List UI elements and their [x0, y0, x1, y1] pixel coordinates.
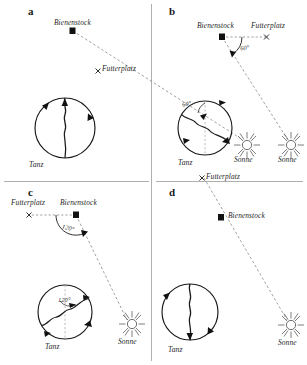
- feeding-marker-d: [200, 176, 205, 181]
- feeding-label-c: Futterplatz: [11, 198, 45, 207]
- hive-label-c: Bienenstock: [60, 198, 97, 207]
- feeding-label-d: Futterplatz: [206, 172, 240, 181]
- hive-label-d: Bienenstock: [228, 211, 265, 220]
- angle-arrow-c: [81, 230, 88, 237]
- feeding-hive-sun-line-d: [204, 178, 287, 320]
- hive-marker-c: [73, 212, 79, 219]
- feeding-marker-a: [96, 69, 101, 74]
- figure-vector-layer: [0, 0, 307, 365]
- sun-label-d: Sonne: [278, 338, 297, 347]
- panel-c-graphics: [27, 212, 146, 340]
- dance-label-b: Tanz: [178, 158, 192, 167]
- dance-label-c: Tanz: [45, 342, 59, 351]
- dance-label-d: Tanz: [168, 345, 182, 354]
- panel-letter-c: c: [28, 186, 33, 198]
- dance-arrows-d: [163, 293, 214, 341]
- dance-circle-c: [38, 285, 92, 339]
- hive-sun-line-a: [73, 31, 243, 140]
- hive-label-b: Bienenstock: [197, 21, 234, 30]
- hive-marker-b: [219, 34, 225, 41]
- hive-marker-a: [70, 28, 76, 35]
- panel-dividers: [4, 4, 303, 361]
- bee-dance-figure: a b c d Bienenstock Futterplatz Tanz Son…: [0, 0, 307, 365]
- dance-angle-label-c: 120°: [58, 296, 71, 303]
- dance-label-a: Tanz: [29, 160, 43, 169]
- feeding-label-b: Futterplatz: [251, 21, 285, 30]
- panel-letter-b: b: [169, 5, 175, 17]
- hive-label-a: Bienenstock: [54, 18, 91, 27]
- feeding-label-a: Futterplatz: [102, 64, 136, 73]
- sun-label-b: Sonne: [278, 155, 297, 164]
- panel-letter-a: a: [28, 5, 34, 17]
- angle-arrow-b: [230, 51, 237, 58]
- angle-label-b: 60°: [240, 43, 250, 51]
- sun-icon-d: [278, 312, 304, 338]
- hive-marker-d: [218, 214, 224, 221]
- sun-label-a: Sonne: [234, 155, 253, 164]
- sun-icon-c: [119, 311, 145, 337]
- feeding-marker-c: [27, 213, 32, 218]
- panel-a-graphics: [35, 28, 260, 159]
- panel-letter-d: d: [169, 186, 175, 198]
- sun-label-c: Sonne: [118, 337, 137, 346]
- panel-d-graphics: [162, 176, 304, 341]
